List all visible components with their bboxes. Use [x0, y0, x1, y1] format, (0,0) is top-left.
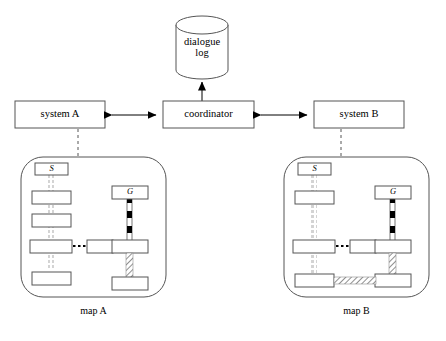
map-b-bottom-hatched-link — [334, 277, 376, 284]
map-b-goal-label: G — [375, 187, 411, 196]
map-a-node-l4[interactable] — [30, 240, 72, 253]
map-a-node-l3[interactable] — [32, 214, 71, 227]
map-a-goal-marker-3 — [127, 226, 132, 233]
map-b-goal-hatched-link — [389, 253, 396, 275]
map-b-caption: map B — [284, 306, 429, 317]
map-b-node-r3[interactable] — [375, 274, 411, 287]
diagram-canvas: dialogue log system A coordinator system… — [0, 0, 446, 341]
map-a-node-mid[interactable] — [87, 240, 113, 253]
map-a-caption: map A — [21, 306, 166, 317]
map-a-node-l5[interactable] — [32, 272, 71, 285]
dialogue-log-label-line1: dialogue — [176, 36, 228, 47]
map-a-group — [21, 157, 166, 297]
coordinator-label: coordinator — [163, 108, 254, 119]
map-b-start-label: S — [298, 164, 331, 173]
map-a-goal-hatched-link — [126, 253, 133, 278]
map-a-goal-label: G — [112, 187, 148, 196]
map-b-node-l2[interactable] — [295, 191, 334, 204]
dialogue-log-label: dialogue log — [176, 36, 228, 58]
map-b-left-rail — [311, 172, 317, 277]
dialogue-log-label-line2: log — [176, 47, 228, 58]
map-b-node-l4[interactable] — [295, 274, 334, 287]
map-a-goal-marker-2 — [127, 211, 132, 218]
map-a-node-l2[interactable] — [32, 191, 71, 204]
map-b-node-l3[interactable] — [293, 240, 335, 253]
map-b-goal-marker-2 — [390, 211, 395, 218]
map-a-node-r3[interactable] — [112, 277, 148, 290]
map-a-node-r2[interactable] — [112, 240, 148, 253]
map-a-start-label: S — [35, 164, 68, 173]
map-b-node-r2[interactable] — [375, 240, 411, 253]
system-b-label: system B — [314, 108, 404, 119]
map-b-group — [284, 157, 429, 297]
map-b-node-mid[interactable] — [350, 240, 376, 253]
map-b-goal-marker-3 — [390, 226, 395, 233]
system-a-label: system A — [15, 108, 105, 119]
